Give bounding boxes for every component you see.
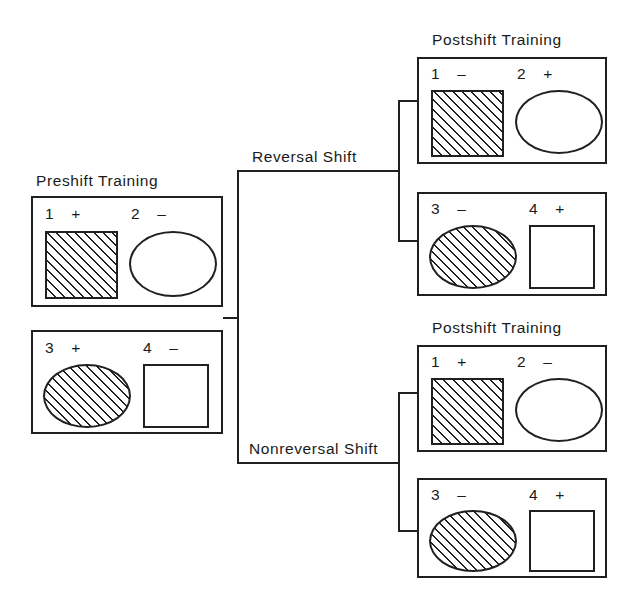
reversal-panel-1-stimulus-1: 1– — [431, 65, 509, 159]
stimulus-number: 4 — [143, 339, 152, 356]
stimulus-sign: + — [71, 205, 81, 223]
reversal-panel-1-stimulus-1-label: 1– — [431, 65, 466, 83]
nonreversal-panel-1: 1+ 2– — [417, 345, 607, 452]
nonreversal-panel-2-stimulus-4-label: 4+ — [529, 486, 565, 504]
stimulus-sign: – — [169, 339, 178, 357]
stimulus-number: 2 — [517, 353, 526, 370]
stimulus-sign: – — [457, 486, 466, 504]
stimulus-sign: – — [157, 205, 166, 223]
nonreversal-panel-1-stimulus-2-label: 2– — [517, 353, 552, 371]
reversal-panel-1-stimulus-1-square-hatched — [431, 90, 504, 157]
nonreversal-panel-1-stimulus-2-ellipse-empty — [515, 378, 603, 442]
stimulus-number: 1 — [45, 205, 54, 222]
stimulus-sign: + — [71, 339, 81, 357]
reversal-panel-2: 3– 4+ — [417, 192, 607, 296]
nonreversal-panel-1-stimulus-1-square-hatched — [431, 378, 504, 445]
reversal-shift-diagram: Preshift Training 1+ 2– 3+ 4– — [0, 0, 640, 605]
connector-reversal-bracket-vertical — [398, 100, 400, 242]
stimulus-sign: + — [555, 200, 565, 218]
reversal-panel-1-stimulus-2-ellipse-empty — [515, 90, 603, 154]
preshift-panel-2: 3+ 4– — [31, 330, 223, 434]
stimulus-number: 1 — [431, 65, 440, 82]
connector-nonreversal-branch-horizontal — [237, 462, 400, 464]
nonreversal-shift-branch-label: Nonreversal Shift — [249, 440, 378, 458]
postshift-training-heading-reversal: Postshift Training — [432, 31, 562, 49]
stimulus-number: 3 — [431, 200, 440, 217]
preshift-panel-1-stimulus-2: 2– — [131, 205, 217, 301]
postshift-training-heading-nonreversal: Postshift Training — [432, 319, 562, 337]
preshift-panel-2-stimulus-3-label: 3+ — [45, 339, 81, 357]
stimulus-number: 2 — [131, 205, 140, 222]
reversal-panel-1: 1– 2+ — [417, 57, 607, 164]
nonreversal-panel-2-stimulus-4: 4+ — [529, 486, 607, 574]
preshift-panel-1-stimulus-2-label: 2– — [131, 205, 166, 223]
connector-reversal-branch-horizontal — [237, 170, 400, 172]
nonreversal-panel-1-stimulus-1-label: 1+ — [431, 353, 467, 371]
stimulus-number: 3 — [431, 486, 440, 503]
preshift-panel-1-stimulus-1-label: 1+ — [45, 205, 81, 223]
stimulus-number: 2 — [517, 65, 526, 82]
nonreversal-panel-1-stimulus-2: 2– — [517, 353, 603, 447]
connector-spine-vertical — [237, 170, 239, 464]
preshift-panel-2-stimulus-3-ellipse-hatched — [43, 364, 131, 428]
preshift-panel-1-stimulus-2-ellipse-empty — [129, 231, 217, 297]
reversal-panel-2-stimulus-4-label: 4+ — [529, 200, 565, 218]
reversal-panel-1-stimulus-2-label: 2+ — [517, 65, 553, 83]
reversal-panel-2-stimulus-3-ellipse-hatched — [429, 225, 517, 289]
stimulus-sign: + — [457, 353, 467, 371]
stimulus-number: 1 — [431, 353, 440, 370]
stimulus-number: 4 — [529, 486, 538, 503]
reversal-shift-branch-label: Reversal Shift — [252, 148, 357, 166]
stimulus-sign: + — [555, 486, 565, 504]
connector-nonreversal-bracket-vertical — [398, 392, 400, 532]
preshift-panel-1: 1+ 2– — [31, 196, 223, 307]
preshift-panel-2-stimulus-4-label: 4– — [143, 339, 178, 357]
reversal-panel-2-stimulus-4-square-empty — [529, 225, 595, 289]
stimulus-sign: – — [543, 353, 552, 371]
stimulus-number: 4 — [529, 200, 538, 217]
stimulus-sign: + — [543, 65, 553, 83]
nonreversal-panel-2-stimulus-3-ellipse-hatched — [429, 510, 517, 572]
stimulus-sign: – — [457, 200, 466, 218]
reversal-panel-2-stimulus-3: 3– — [431, 200, 517, 291]
reversal-panel-2-stimulus-3-label: 3– — [431, 200, 466, 218]
nonreversal-panel-1-stimulus-1: 1+ — [431, 353, 509, 447]
nonreversal-panel-2: 3– 4+ — [417, 478, 607, 578]
reversal-panel-2-stimulus-4: 4+ — [529, 200, 607, 291]
stimulus-number: 3 — [45, 339, 54, 356]
reversal-panel-1-stimulus-2: 2+ — [517, 65, 603, 159]
preshift-panel-1-stimulus-1-square-hatched — [45, 231, 118, 299]
nonreversal-panel-2-stimulus-4-square-empty — [529, 510, 595, 572]
preshift-panel-2-stimulus-4: 4– — [143, 339, 221, 429]
nonreversal-panel-2-stimulus-3-label: 3– — [431, 486, 466, 504]
nonreversal-panel-2-stimulus-3: 3– — [431, 486, 517, 574]
stimulus-sign: – — [457, 65, 466, 83]
preshift-panel-1-stimulus-1: 1+ — [45, 205, 123, 301]
preshift-panel-2-stimulus-4-square-empty — [143, 364, 209, 428]
preshift-training-heading: Preshift Training — [36, 172, 158, 190]
preshift-panel-2-stimulus-3: 3+ — [45, 339, 131, 429]
